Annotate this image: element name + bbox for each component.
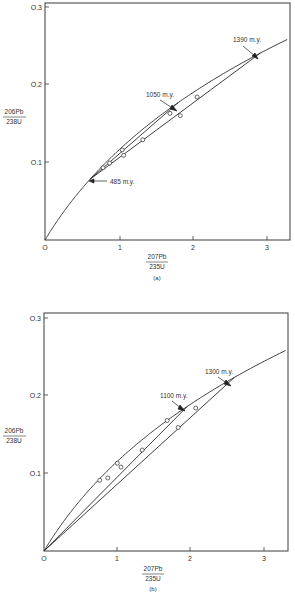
y-tick-0.3-b: O.3 <box>30 315 41 322</box>
data-point <box>176 425 180 429</box>
data-point <box>168 111 172 115</box>
data-point <box>106 476 110 480</box>
data-point <box>141 138 145 142</box>
panel-b: O.1 O.2 O.3 O 1 2 3 207Pb 235U (b) 206Pb… <box>3 313 288 592</box>
caption-a: (a) <box>153 275 160 281</box>
data-point <box>101 166 105 170</box>
data-point <box>98 478 102 482</box>
annotation-485-a: 485 m.y. <box>110 178 135 186</box>
x-axis-a <box>120 236 267 240</box>
annotation-arrows-a <box>89 46 258 183</box>
discordia-line <box>90 53 260 179</box>
x-tick-2-b: 2 <box>188 555 192 562</box>
data-point <box>194 406 198 410</box>
origin-label-a: O <box>42 244 48 251</box>
y-label-den-b: 238U <box>6 437 22 444</box>
x-axis-b <box>117 547 264 551</box>
x-tick-3-b: 3 <box>262 555 266 562</box>
concordia-curve <box>44 351 286 552</box>
data-point <box>195 95 199 99</box>
x-tick-2-a: 2 <box>191 244 195 251</box>
data-point <box>178 114 182 118</box>
discordia-line <box>44 406 187 551</box>
y-label-den-a: 238U <box>6 118 22 125</box>
y-tick-0.2-a: O.2 <box>31 81 42 88</box>
annotation-1390-a: 1390 m.y. <box>233 36 261 44</box>
concordia-curve <box>45 40 287 241</box>
data-point <box>140 448 144 452</box>
y-label-num-b: 206Pb <box>5 427 24 434</box>
caption-b: (b) <box>149 586 156 592</box>
y-axis-b <box>44 318 48 473</box>
x-label-num-b: 207Pb <box>144 565 163 572</box>
plot-area-b <box>44 351 286 552</box>
data-point <box>165 418 169 422</box>
x-tick-1-a: 1 <box>118 244 122 251</box>
annotation-1050-a: 1050 m.y. <box>146 91 174 99</box>
y-tick-0.1-b: O.1 <box>30 470 41 477</box>
plot-frame-b <box>44 313 288 551</box>
y-tick-0.1-a: O.1 <box>31 159 42 166</box>
concordia-figure: O.1 O.2 O.3 O 1 2 3 207Pb 235U (a) 206Pb… <box>0 0 295 596</box>
y-label-num-a: 206Pb <box>5 108 24 115</box>
x-tick-3-a: 3 <box>265 244 269 251</box>
data-point <box>108 161 112 165</box>
x-label-den-a: 235U <box>149 263 165 270</box>
data-point <box>119 465 123 469</box>
y-axis-a <box>45 7 49 162</box>
panel-a: O.1 O.2 O.3 O 1 2 3 207Pb 235U (a) 206Pb… <box>3 3 290 281</box>
x-tick-1-b: 1 <box>115 555 119 562</box>
annotation-1100-b: 1100 m.y. <box>160 392 188 400</box>
x-label-num-a: 207Pb <box>148 253 167 260</box>
data-point <box>115 461 119 465</box>
data-point <box>122 153 126 157</box>
x-label-den-b: 235U <box>145 575 161 582</box>
annotation-1300-b: 1300 m.y. <box>205 368 233 376</box>
y-tick-0.3-a: O.3 <box>31 4 42 11</box>
discordia-line <box>44 377 234 551</box>
plot-area-a <box>45 40 287 241</box>
origin-label-b: O <box>41 555 47 562</box>
data-point <box>120 148 124 152</box>
y-tick-0.2-b: O.2 <box>30 392 41 399</box>
